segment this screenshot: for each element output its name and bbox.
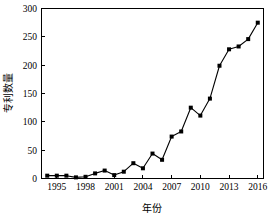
data-point (141, 166, 145, 170)
data-point (179, 129, 183, 133)
data-point (217, 64, 221, 68)
data-point (131, 161, 135, 165)
data-point (55, 174, 59, 178)
data-point (198, 114, 202, 118)
y-tick-label: 250 (23, 32, 38, 42)
series-markers (45, 21, 260, 180)
x-tick-label: 1998 (76, 182, 95, 192)
data-point (103, 169, 107, 173)
x-tick-label: 2001 (105, 182, 124, 192)
data-point (189, 106, 193, 110)
x-tick-label: 1995 (47, 182, 66, 192)
data-point (237, 44, 241, 48)
data-point (160, 158, 164, 162)
data-point (64, 174, 68, 178)
x-tick-label: 2010 (191, 182, 210, 192)
data-point (170, 135, 174, 139)
data-point (45, 174, 49, 178)
y-tick-label: 0 (32, 174, 37, 184)
x-tick-label: 2004 (133, 182, 152, 192)
data-point (74, 175, 78, 179)
data-point (227, 47, 231, 51)
data-point (151, 152, 155, 156)
data-point (84, 175, 88, 179)
x-axis-title: 年份 (142, 202, 162, 214)
x-tick-label: 2013 (220, 182, 239, 192)
data-point (246, 37, 250, 41)
y-axis-title: 专利数量 (2, 73, 14, 113)
data-point (93, 171, 97, 175)
chart-canvas: 050100150200250300 199519982001200420072… (0, 0, 272, 220)
y-tick-label: 300 (23, 4, 38, 14)
y-tick-label: 200 (23, 61, 38, 71)
x-tick-label: 2016 (248, 182, 267, 192)
y-tick-label: 50 (28, 146, 38, 156)
data-point (208, 97, 212, 101)
patent-count-line-chart: 050100150200250300 199519982001200420072… (0, 0, 272, 220)
x-tick-label: 2007 (162, 182, 181, 192)
data-point (256, 21, 260, 25)
y-tick-label: 100 (23, 117, 38, 127)
y-tick-label: 150 (23, 89, 38, 99)
data-point (112, 173, 116, 177)
data-series (45, 21, 260, 180)
data-point (122, 170, 126, 174)
